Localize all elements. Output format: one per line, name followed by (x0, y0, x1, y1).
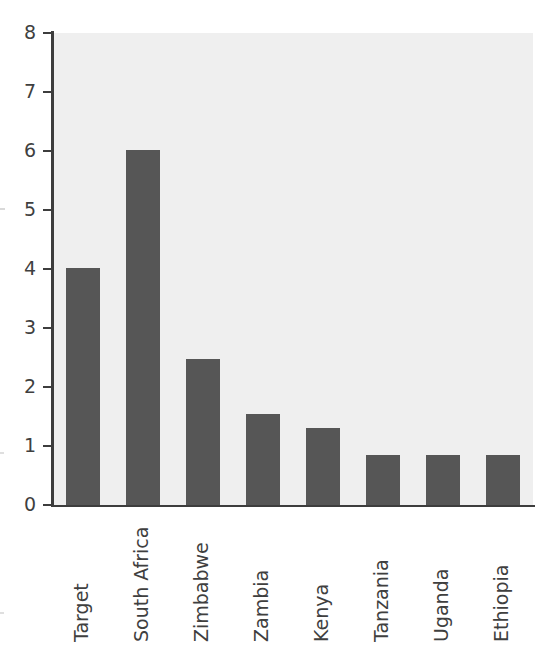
y-axis-tick (43, 150, 52, 152)
bar (186, 359, 220, 505)
x-axis-label-text: Kenya (312, 584, 331, 642)
x-axis-label-text: Target (72, 583, 91, 642)
x-axis-label-text: Zimbabwe (192, 542, 211, 642)
y-axis-tick (43, 32, 52, 34)
y-axis-tick-label: 8 (12, 23, 36, 42)
bar (366, 455, 400, 505)
y-axis-tick (43, 91, 52, 93)
bar (66, 268, 100, 505)
y-axis-tick (43, 327, 52, 329)
page-edge-artifact (0, 208, 5, 210)
y-axis-tick (43, 209, 52, 211)
x-axis-label-text: Uganda (432, 569, 451, 642)
y-axis-tick-label: 6 (12, 141, 36, 160)
y-axis-tick (43, 504, 52, 506)
y-axis-tick-label: 4 (12, 259, 36, 278)
x-axis-labels: TargetSouth AfricaZimbabweZambiaKenyaTan… (53, 512, 533, 647)
y-axis-tick-label: 2 (12, 377, 36, 396)
y-axis-tick (43, 268, 52, 270)
x-axis-label-text: Tanzania (372, 559, 391, 642)
y-axis-tick (43, 445, 52, 447)
y-axis-tick-label: 5 (12, 200, 36, 219)
x-axis-label-text: Zambia (252, 570, 271, 642)
y-axis-tick (43, 386, 52, 388)
bar-chart-figure: 012345678 TargetSouth AfricaZimbabweZamb… (0, 0, 552, 651)
page-edge-artifact (0, 452, 4, 454)
x-axis-label-text: South Africa (132, 527, 151, 642)
page-edge-artifact (0, 612, 4, 614)
y-axis-tick-label: 7 (12, 82, 36, 101)
bar (486, 455, 520, 505)
x-axis-label-text: Ethiopia (492, 565, 511, 642)
bar (126, 150, 160, 505)
bar (426, 455, 460, 505)
y-axis-tick-label: 3 (12, 318, 36, 337)
bars-group (53, 33, 533, 505)
y-axis-tick-label: 0 (12, 495, 36, 514)
bar (306, 428, 340, 505)
bar (246, 414, 280, 505)
y-axis-tick-label: 1 (12, 436, 36, 455)
